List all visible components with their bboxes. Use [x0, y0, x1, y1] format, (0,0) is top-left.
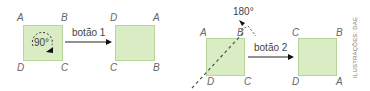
- diagram-overlay: [0, 0, 370, 91]
- arrow-right-icon: [65, 39, 112, 45]
- arrow-right-icon: [248, 54, 294, 60]
- diagonal-axis-icon: [192, 20, 256, 88]
- rotation-arc-icon: [32, 32, 53, 53]
